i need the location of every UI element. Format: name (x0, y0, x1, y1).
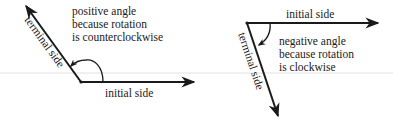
initial-side-label: initial side (105, 87, 153, 99)
caption-line-3: is clockwise (279, 61, 336, 73)
angle-diagrams: initial side terminal side positive angl… (0, 0, 393, 125)
initial-side-label: initial side (286, 8, 334, 20)
negative-angle-diagram: initial side terminal side negative angl… (236, 8, 378, 116)
vertex-dot (245, 21, 248, 24)
terminal-side-label: terminal side (236, 31, 266, 91)
positive-angle-diagram: initial side terminal side positive angl… (22, 5, 194, 99)
vertex-dot (79, 80, 82, 83)
clockwise-rotation-arc-icon (259, 23, 270, 45)
caption-line-2: because rotation (72, 18, 147, 30)
caption-line-1: negative angle (279, 35, 346, 48)
caption-line-3: is counterclockwise (72, 31, 163, 43)
terminal-side-label: terminal side (22, 14, 67, 69)
caption-line-2: because rotation (279, 48, 354, 60)
caption-line-1: positive angle (72, 5, 136, 18)
counterclockwise-rotation-arc-icon (71, 60, 103, 82)
